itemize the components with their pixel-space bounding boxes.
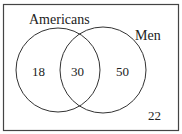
americans-label: Americans — [29, 12, 90, 27]
venn-diagram: Americans Men 18 30 50 22 — [0, 0, 182, 134]
outside-count: 22 — [148, 108, 161, 123]
men-only-count: 50 — [116, 64, 129, 79]
intersection-count: 30 — [71, 64, 84, 79]
americans-circle — [16, 28, 100, 112]
men-label: Men — [135, 28, 161, 43]
americans-only-count: 18 — [32, 64, 45, 79]
